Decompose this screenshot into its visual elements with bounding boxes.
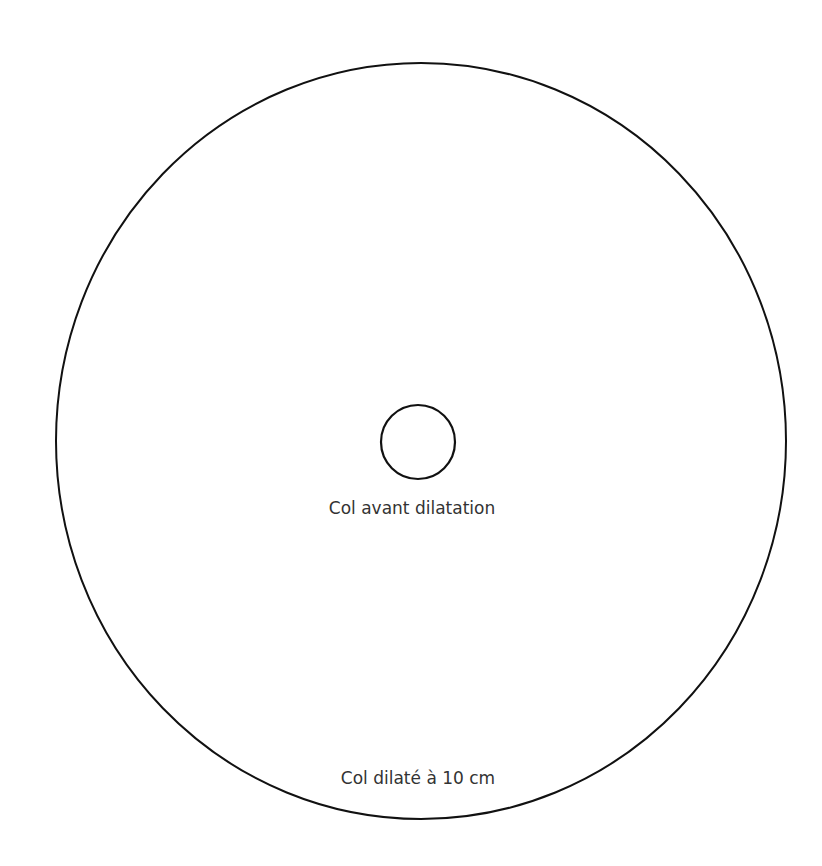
inner-circle-before-dilation (381, 405, 455, 479)
outer-circle-label: Col dilaté à 10 cm (341, 768, 495, 788)
outer-circle-dilated (56, 63, 786, 819)
cervix-dilation-diagram: Col avant dilatation Col dilaté à 10 cm (0, 0, 822, 866)
inner-circle-label: Col avant dilatation (329, 498, 495, 518)
